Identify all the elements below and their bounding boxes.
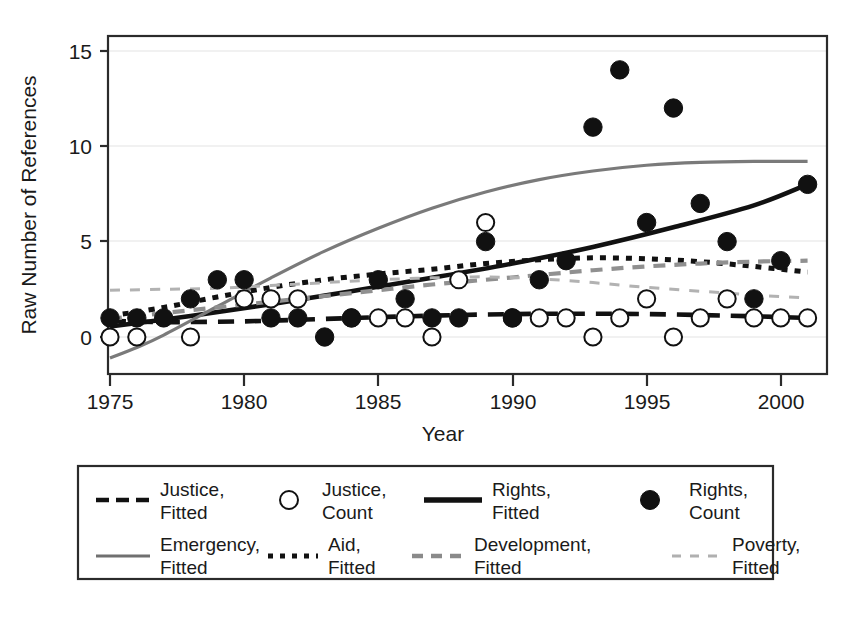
justice-count-marker [262, 290, 279, 307]
legend-label-line1: Justice, [160, 479, 224, 500]
legend-label-line2: Fitted [160, 502, 208, 523]
y-tick-label-5: 5 [80, 230, 92, 253]
rights-count-marker [637, 213, 655, 231]
rights-count-marker [450, 309, 468, 327]
legend-label-line2: Fitted [328, 557, 376, 578]
rights-count-marker [691, 194, 709, 212]
rights-count-marker [476, 232, 494, 250]
justice-count-marker [236, 290, 253, 307]
rights-count-marker [423, 309, 441, 327]
justice-count-marker [289, 290, 306, 307]
justice-count-marker [772, 309, 789, 326]
justice-count-marker [718, 290, 735, 307]
filled-circle-swatch-icon [641, 491, 660, 510]
justice-count-marker [423, 328, 440, 345]
justice-count-marker [692, 309, 709, 326]
rights-count-marker [235, 271, 253, 289]
rights-count-marker [181, 290, 199, 308]
justice-count-marker [611, 309, 628, 326]
rights-count-marker [289, 309, 307, 327]
justice-count-marker [638, 290, 655, 307]
legend-label-line1: Rights, [689, 479, 748, 500]
legend-label-line1: Rights, [492, 479, 551, 500]
legend-label-line2: Count [689, 502, 740, 523]
y-axis-title: Raw Number of References [17, 75, 40, 334]
rights-count-marker [154, 309, 172, 327]
justice-count-marker [584, 328, 601, 345]
legend-label-line2: Fitted [160, 557, 208, 578]
rights-count-marker [798, 175, 816, 193]
justice-count-marker [665, 328, 682, 345]
rights-count-marker [396, 290, 414, 308]
justice-count-marker [397, 309, 414, 326]
legend-label-line1: Aid, [328, 534, 361, 555]
rights-count-marker [557, 251, 575, 269]
justice-count-marker [477, 214, 494, 231]
justice-count-marker [799, 309, 816, 326]
x-axis-title: Year [422, 422, 464, 445]
legend-label-line2: Fitted [474, 557, 522, 578]
rights-count-marker [584, 118, 602, 136]
rights-count-marker [718, 232, 736, 250]
rights-count-marker [315, 328, 333, 346]
rights-count-marker [128, 309, 146, 327]
open-circle-swatch-icon [280, 491, 298, 509]
legend-label-line2: Fitted [492, 502, 540, 523]
justice-count-marker [450, 271, 467, 288]
chart-canvas: 15 10 5 0 1975 1980 1985 1990 1995 2000 … [0, 0, 849, 634]
rights-count-marker [342, 309, 360, 327]
legend-label-line2: Fitted [732, 557, 780, 578]
x-tick-label-1990: 1990 [490, 390, 537, 413]
rights-count-marker [664, 99, 682, 117]
x-tick-label-1980: 1980 [221, 390, 268, 413]
justice-count-marker [182, 328, 199, 345]
justice-count-marker [128, 328, 145, 345]
legend-label-line2: Count [322, 502, 373, 523]
x-tick-label-1995: 1995 [624, 390, 671, 413]
rights-count-marker [611, 61, 629, 79]
justice-count-marker [101, 328, 118, 345]
rights-count-marker [772, 251, 790, 269]
legend-label-line1: Development, [474, 534, 591, 555]
justice-count-marker [531, 309, 548, 326]
rights-count-marker [369, 271, 387, 289]
rights-count-marker [208, 271, 226, 289]
rights-count-marker [101, 309, 119, 327]
justice-count-marker [558, 309, 575, 326]
x-tick-label-1985: 1985 [355, 390, 402, 413]
justice-count-marker [370, 309, 387, 326]
y-tick-label-15: 15 [69, 40, 92, 63]
rights-count-marker [262, 309, 280, 327]
x-tick-label-2000: 2000 [758, 390, 805, 413]
justice-count-marker [745, 309, 762, 326]
y-tick-label-10: 10 [69, 135, 92, 158]
figure-container: 15 10 5 0 1975 1980 1985 1990 1995 2000 … [0, 0, 849, 634]
legend-label-line1: Justice, [322, 479, 386, 500]
rights-count-marker [745, 290, 763, 308]
y-tick-label-0: 0 [80, 326, 92, 349]
rights-count-marker [530, 271, 548, 289]
x-tick-label-1975: 1975 [87, 390, 134, 413]
legend-label-line1: Poverty, [732, 534, 800, 555]
legend-label-line1: Emergency, [160, 534, 260, 555]
rights-count-marker [503, 309, 521, 327]
